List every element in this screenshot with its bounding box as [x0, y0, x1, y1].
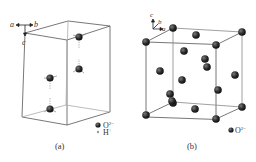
- oxygen-atom: [46, 105, 53, 112]
- panel-caption-a: (a): [55, 141, 65, 151]
- oxygen-legend-icon: [228, 127, 233, 132]
- axis-label-a: a: [10, 20, 14, 29]
- hydroxide-groups: [44, 33, 86, 112]
- oxygen-lattice: [142, 24, 246, 123]
- legend-hydrogen-label: H+: [103, 128, 112, 137]
- hydrogen-legend-icon: [97, 131, 99, 133]
- panel-b: c b a O2− (b): [142, 11, 246, 151]
- legend-b: O2−: [228, 126, 246, 135]
- axis-label-a: a: [162, 25, 166, 33]
- crystal-structure-figure: a b c O2− H+ (a: [0, 0, 256, 162]
- axis-label-c: c: [150, 11, 154, 19]
- oxygen-atom: [75, 65, 82, 72]
- unit-cell-a: [22, 21, 110, 125]
- panel-a: a b c O2− H+ (a: [10, 20, 114, 151]
- legend-a: O2− H+: [95, 121, 114, 137]
- oxygen-legend-icon: [95, 122, 100, 127]
- oxygen-atom: [46, 74, 53, 81]
- panel-caption-b: (b): [187, 141, 197, 151]
- axis-label-c: c: [22, 38, 26, 47]
- legend-oxygen-label: O2−: [235, 126, 246, 135]
- oxygen-atom: [75, 33, 82, 40]
- axis-label-b: b: [34, 20, 38, 29]
